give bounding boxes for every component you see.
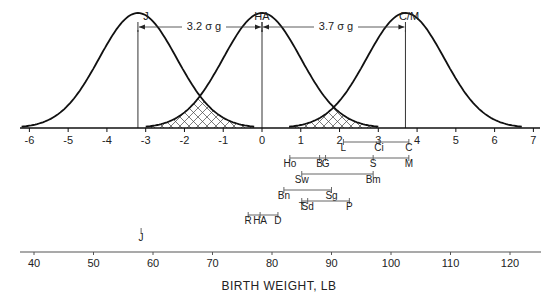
range-label-g: G	[322, 158, 330, 169]
range-label-ho: Ho	[283, 158, 296, 169]
range-label-ci: Ci	[374, 142, 383, 153]
separation-label-2: 3.7 σ g	[319, 20, 353, 32]
range-label-p: P	[346, 201, 353, 212]
range-label-sg: Sg	[325, 190, 337, 201]
tick-label: -4	[102, 134, 112, 146]
peak-label-j: J	[143, 10, 149, 22]
range-bars: LCiCHoBGSMSwBmBnSgTSdPRHADJ	[139, 139, 413, 243]
tick-label: 90	[325, 257, 337, 269]
arrowhead	[263, 25, 269, 30]
tick-label: 40	[28, 257, 40, 269]
tick-label: 80	[266, 257, 278, 269]
tick-label: 100	[382, 257, 400, 269]
range-label-m: M	[405, 158, 413, 169]
arrowhead	[398, 25, 404, 30]
tick-label: 120	[501, 257, 519, 269]
range-label-bn: Bn	[278, 190, 290, 201]
tick-label: 7	[530, 134, 536, 146]
tick-label: 1	[298, 134, 304, 146]
peak-label-cm: C/M	[399, 10, 419, 22]
distribution-chart: -6-5-4-3-2-101234567 J HA C/M 3.2 σ g3.7…	[0, 0, 558, 307]
range-label-l: L	[341, 142, 347, 153]
range-label-sd: Sd	[302, 201, 314, 212]
range-label-r: R	[245, 215, 252, 226]
tick-label: 50	[87, 257, 99, 269]
peak-label-ha: HA	[254, 10, 270, 22]
tick-label: 5	[453, 134, 459, 146]
range-label-c: C	[405, 142, 412, 153]
arrowhead	[139, 25, 145, 30]
arrowhead	[255, 25, 261, 30]
tick-label: 6	[492, 134, 498, 146]
tick-label: -5	[63, 134, 73, 146]
range-label-ha: HA	[253, 215, 267, 226]
x-axis-label: BIRTH WEIGHT, LB	[221, 279, 336, 293]
separation-label-1: 3.2 σ g	[187, 20, 221, 32]
tick-label: 0	[259, 134, 265, 146]
sigma-axis: -6-5-4-3-2-101234567	[20, 128, 540, 146]
tick-label: -2	[180, 134, 190, 146]
tick-label: 60	[147, 257, 159, 269]
tick-label: -1	[218, 134, 228, 146]
range-label-s: S	[370, 158, 377, 169]
tick-label: -6	[24, 134, 34, 146]
tick-label: 4	[414, 134, 420, 146]
separation-arrows: 3.2 σ g3.7 σ g	[138, 20, 406, 33]
tick-label: 70	[206, 257, 218, 269]
birth-weight-axis: 405060708090100110120	[20, 252, 541, 269]
tick-label: 110	[442, 257, 460, 269]
tick-label: -3	[141, 134, 151, 146]
range-label-j: J	[139, 232, 144, 243]
normal-curves	[22, 13, 522, 128]
range-label-d: D	[274, 215, 281, 226]
range-label-sw: Sw	[295, 174, 310, 185]
range-label-bm: Bm	[366, 174, 381, 185]
